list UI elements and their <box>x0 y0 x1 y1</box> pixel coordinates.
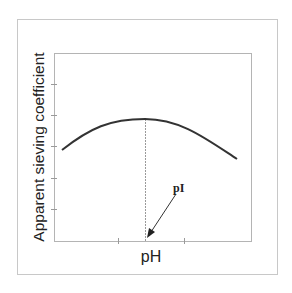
x-axis-label: pH <box>141 248 161 265</box>
y-axis-label: Apparent sieving coefficient <box>30 52 47 242</box>
data-curve <box>62 119 237 159</box>
pi-arrow-head-icon <box>147 228 155 238</box>
pi-arrow-shaft <box>151 194 176 232</box>
plot-area <box>55 54 252 242</box>
pi-annotation: pI <box>173 181 185 195</box>
chart-svg: pI pH Apparent sieving coefficient <box>0 0 292 293</box>
